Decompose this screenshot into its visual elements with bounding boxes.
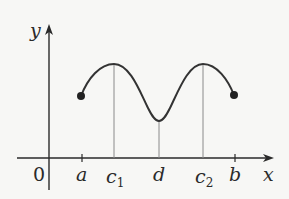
tick-label-c1: c1 (106, 167, 124, 189)
function-curve (81, 64, 234, 121)
tick-label-b: b (229, 165, 241, 184)
tick-label-c2: c2 (195, 167, 213, 189)
tick-label-a-text: a (76, 163, 87, 185)
tick-label-b-text: b (229, 163, 241, 185)
tick-label-c1-sub: 1 (117, 176, 125, 190)
tick-label-c1-text: c (106, 165, 117, 187)
tick-label-c2-sub: 2 (206, 176, 214, 190)
function-graph-diagram: y x 0 a c1 d c2 b (0, 0, 289, 199)
tick-label-a: a (76, 165, 87, 184)
tick-label-c2-text: c (195, 165, 206, 187)
tick-label-d: d (153, 165, 165, 184)
endpoint-b-dot (230, 91, 238, 99)
tick-label-d-text: d (153, 163, 165, 185)
x-axis-label: x (263, 165, 274, 184)
endpoint-a-dot (77, 92, 85, 100)
y-axis-label: y (30, 21, 41, 40)
origin-label: 0 (33, 165, 45, 184)
